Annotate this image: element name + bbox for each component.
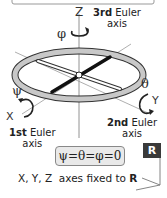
first-euler-axis-label: 1st Euler axis bbox=[9, 127, 56, 149]
third-ordinal: 3rd bbox=[93, 7, 112, 18]
theta-arrowhead-icon bbox=[149, 109, 154, 115]
third-axis-word: axis bbox=[93, 18, 141, 29]
center-hub bbox=[76, 72, 82, 78]
second-ordinal: 2nd bbox=[107, 117, 128, 128]
theta-symbol: θ bbox=[141, 77, 149, 90]
axes-fixed-caption: X, Y, Z axes fixed to R bbox=[18, 172, 137, 184]
psi-symbol: ψ bbox=[12, 84, 22, 97]
euler-angles-diagram: Z 3rd Euler axis φ θ Y 2nd Euler axis ψ … bbox=[0, 0, 167, 198]
y-axis-label: Y bbox=[152, 95, 159, 106]
r-frame-edge-2 bbox=[136, 185, 160, 190]
zero-angles-equation: ψ=θ=φ=0 bbox=[55, 146, 125, 166]
x-axis-label: X bbox=[6, 111, 14, 122]
first-euler-word: Euler bbox=[30, 127, 56, 138]
third-euler-axis-label: 3rd Euler axis bbox=[93, 7, 141, 29]
z-axis-label: Z bbox=[75, 6, 83, 18]
caption-prefix: X, Y, Z axes fixed to bbox=[18, 172, 129, 184]
diagram-graphics bbox=[0, 0, 167, 198]
phi-symbol: φ bbox=[57, 27, 66, 40]
second-euler-axis-label: 2nd Euler axis bbox=[107, 117, 157, 139]
phi-rotation-arrow bbox=[72, 30, 88, 36]
r-frame-edge-1 bbox=[142, 178, 160, 185]
top-frame-edge bbox=[12, 0, 154, 4]
third-euler-word: Euler bbox=[115, 7, 141, 18]
caption-frame: R bbox=[129, 172, 137, 184]
reference-frame-badge: R bbox=[143, 143, 161, 158]
first-ordinal: 1st bbox=[9, 127, 27, 138]
second-euler-word: Euler bbox=[131, 117, 157, 128]
second-axis-word: axis bbox=[107, 128, 157, 139]
first-axis-word: axis bbox=[9, 138, 56, 149]
